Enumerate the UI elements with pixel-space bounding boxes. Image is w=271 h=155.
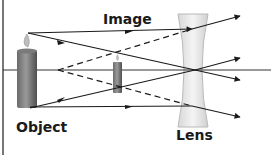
arrow-icon xyxy=(125,105,133,109)
lens-label: Lens xyxy=(176,128,213,142)
object-candle xyxy=(17,34,37,108)
ray-bottom-parallel xyxy=(30,106,192,107)
object-label: Object xyxy=(16,120,67,134)
flame-icon xyxy=(24,34,29,47)
ray-bottom-central xyxy=(30,70,195,108)
ray-top-central xyxy=(28,33,195,70)
image-label: Image xyxy=(103,12,152,26)
ray-top-parallel xyxy=(28,29,192,33)
virtual-rays xyxy=(58,29,192,106)
image-flame-icon xyxy=(116,54,119,61)
